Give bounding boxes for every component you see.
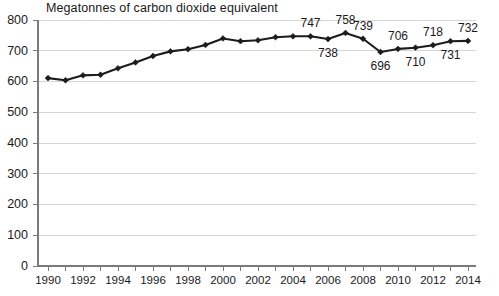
data-label-2008: 739	[353, 19, 373, 33]
y-tick-label-0: 0	[21, 259, 28, 273]
data-point-2011	[413, 45, 419, 51]
data-point-1994	[115, 65, 121, 71]
data-label-2009: 696	[370, 59, 390, 73]
x-tick-label-1996: 1996	[140, 274, 166, 286]
data-point-1993	[98, 72, 104, 78]
x-axis-tickmarks	[48, 266, 468, 271]
x-axis-tick-labels: 1990199219941996199820002002200420062008…	[35, 274, 481, 286]
data-point-1995	[133, 60, 139, 66]
chart-container: Megatonnes of carbon dioxide equivalent …	[0, 0, 499, 296]
x-tick-label-2008: 2008	[350, 274, 376, 286]
gridlines	[38, 20, 476, 235]
x-tick-label-2012: 2012	[420, 274, 446, 286]
data-point-1996	[150, 53, 156, 59]
y-tick-label-500: 500	[7, 105, 28, 119]
data-label-2010: 706	[388, 29, 408, 43]
data-point-2005	[308, 33, 314, 39]
data-point-2004	[290, 33, 296, 39]
x-tick-label-2014: 2014	[455, 274, 481, 286]
data-point-2006	[325, 36, 331, 42]
x-tick-label-2002: 2002	[245, 274, 271, 286]
y-tick-label-800: 800	[7, 13, 28, 27]
x-tick-label-1992: 1992	[70, 274, 96, 286]
y-tick-label-700: 700	[7, 44, 28, 58]
data-point-2001	[238, 38, 244, 44]
y-tick-label-200: 200	[7, 197, 28, 211]
data-point-2003	[273, 34, 279, 40]
x-tick-label-1998: 1998	[175, 274, 201, 286]
data-point-2002	[255, 37, 261, 43]
data-point-2012	[430, 42, 436, 48]
x-tick-label-1994: 1994	[105, 274, 131, 286]
data-label-2011: 710	[405, 55, 425, 69]
data-label-2014: 732	[458, 21, 478, 35]
data-point-1990	[45, 75, 51, 81]
line-chart-plot: 0100200300400500600700800 19901992199419…	[0, 0, 499, 296]
data-label-2006: 738	[318, 46, 338, 60]
y-tick-label-400: 400	[7, 136, 28, 150]
data-label-2005: 747	[300, 16, 320, 30]
y-tick-label-600: 600	[7, 74, 28, 88]
y-axis-tick-labels: 0100200300400500600700800	[7, 13, 38, 273]
data-label-2013: 731	[440, 48, 460, 62]
data-point-1992	[80, 72, 86, 78]
x-tick-label-1990: 1990	[35, 274, 61, 286]
data-label-2012: 718	[423, 25, 443, 39]
data-point-2014	[465, 38, 471, 44]
data-point-2013	[448, 38, 454, 44]
data-point-1997	[168, 48, 174, 54]
data-point-2000	[220, 36, 226, 42]
x-tick-label-2010: 2010	[385, 274, 411, 286]
x-tick-label-2004: 2004	[280, 274, 306, 286]
data-point-2007	[343, 30, 349, 36]
data-point-1991	[63, 77, 69, 83]
y-tick-label-300: 300	[7, 167, 28, 181]
y-tick-label-100: 100	[7, 228, 28, 242]
x-tick-label-2006: 2006	[315, 274, 341, 286]
x-tick-label-2000: 2000	[210, 274, 236, 286]
data-point-1999	[203, 42, 209, 48]
